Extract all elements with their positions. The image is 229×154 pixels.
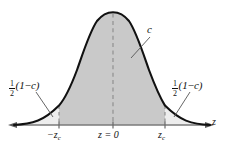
left-tail-fraction: 1 2 (9, 80, 15, 98)
right-tail-fraction: 1 2 (172, 80, 178, 98)
tick-label-negative-zc-base: −z (47, 129, 58, 140)
right-tail-fraction-numerator: 1 (172, 80, 178, 90)
tick-label-negative-zc-subscript: c (58, 134, 61, 142)
left-tail-area-label: 1 2 (1−c) (9, 76, 39, 98)
right-tail-close-paren: c) (194, 79, 203, 91)
tick-label-z-equals-zero: z = 0 (98, 130, 119, 140)
tick-label-negative-zc: −zc (47, 130, 61, 142)
right-tail-area-label: 1 2 (1−c) (172, 76, 202, 98)
right-tail-expression: (1−c) (179, 79, 203, 91)
left-tail-open-paren: (1 (16, 79, 25, 91)
left-tail-close-paren: c) (31, 79, 40, 91)
right-tail-open-paren: (1 (179, 79, 188, 91)
normal-curve-figure: 1 2 (1−c) 1 2 (1−c) c z −zc z = 0 zc (0, 0, 229, 154)
tick-label-positive-zc: zc (158, 130, 165, 142)
axis-variable-label: z (212, 117, 216, 127)
left-tail-fraction-numerator: 1 (9, 80, 15, 90)
tick-label-positive-zc-subscript: c (162, 134, 165, 142)
left-tail-fraction-denominator: 2 (9, 89, 15, 98)
right-tail-fraction-denominator: 2 (172, 89, 178, 98)
confidence-area-label: c (147, 24, 152, 35)
left-tail-expression: (1−c) (16, 79, 40, 91)
